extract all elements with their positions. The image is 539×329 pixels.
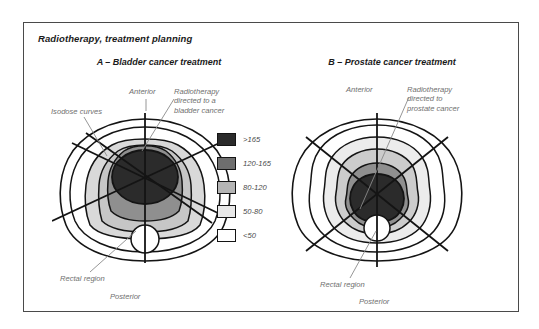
legend-row: 50-80 — [217, 199, 283, 223]
panel-a-posterior-label: Posterior — [110, 292, 140, 301]
isodose-legend: >165 120-165 80-120 50-80 <50 — [217, 127, 283, 247]
prostate-cross-section-diagram — [282, 111, 472, 271]
panel-b-beam-line1: Radiotherapy — [407, 85, 452, 94]
panel-a-beam-target-label: Radiotherapy directed to a bladder cance… — [174, 87, 238, 115]
panel-a-beam-line1: Radiotherapy — [174, 87, 219, 96]
figure-frame: Radiotherapy, treatment planning A – Bla… — [23, 22, 519, 312]
legend-swatch-lt50 — [217, 229, 236, 242]
legend-label-80-120: 80-120 — [243, 183, 267, 192]
panel-b-beam-line2: directed to — [407, 94, 442, 103]
panel-a-beam-line3: bladder cancer — [174, 106, 224, 115]
legend-swatch-80-120 — [217, 181, 236, 194]
panel-a-isodose-curves-label: Isodose curves — [51, 107, 102, 116]
legend-swatch-120-165 — [217, 157, 236, 170]
panel-b-posterior-label: Posterior — [359, 297, 389, 306]
legend-label-lt50: <50 — [243, 231, 256, 240]
panel-a-beam-line2: directed to a — [174, 96, 216, 105]
panel-b-heading: B – Prostate cancer treatment — [292, 57, 492, 67]
legend-row: 80-120 — [217, 175, 283, 199]
legend-row: 120-165 — [217, 151, 283, 175]
panel-a-anterior-label: Anterior — [129, 87, 156, 96]
panel-a-rectal-region-label: Rectal region — [60, 274, 105, 283]
legend-row: >165 — [217, 127, 283, 151]
panel-b-anterior-label: Anterior — [346, 85, 373, 94]
legend-label-50-80: 50-80 — [243, 207, 262, 216]
panel-a-heading: A – Bladder cancer treatment — [64, 57, 254, 67]
legend-swatch-50-80 — [217, 205, 236, 218]
panel-b-beam-line3: prostate cancer — [407, 104, 459, 113]
legend-label-gt165: >165 — [243, 135, 260, 144]
legend-swatch-gt165 — [217, 133, 236, 146]
panel-b-beam-target-label: Radiotherapy directed to prostate cancer — [407, 85, 475, 113]
legend-row: <50 — [217, 223, 283, 247]
legend-label-120-165: 120-165 — [243, 159, 271, 168]
bladder-cross-section-diagram — [52, 111, 238, 271]
figure-title: Radiotherapy, treatment planning — [38, 33, 192, 44]
panel-b-rectal-region-label: Rectal region — [320, 280, 365, 289]
